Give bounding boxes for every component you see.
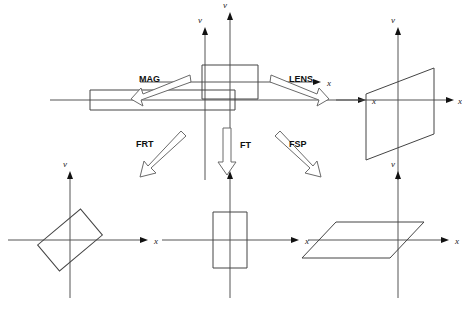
panel-fsp: v x xyxy=(302,159,459,298)
frt-arrow-icon[interactable] xyxy=(140,131,186,177)
panel-ft: v x xyxy=(162,159,309,298)
x-axis-label: x xyxy=(304,236,309,246)
x-axis-label: x xyxy=(326,78,331,88)
x-axis-arrowhead xyxy=(140,237,148,243)
x-axis-arrowhead xyxy=(446,97,454,103)
panel-lens: v x xyxy=(336,15,462,180)
operation-frt[interactable]: FRT xyxy=(136,131,186,177)
v-axis-label: v xyxy=(198,15,202,25)
ft-arrow-icon[interactable] xyxy=(218,128,236,175)
x-axis-label: x xyxy=(371,96,376,106)
operation-ft[interactable]: FT xyxy=(218,128,251,175)
v-axis-arrowhead xyxy=(395,171,401,179)
wigner-support-shape xyxy=(366,68,434,160)
fsp-arrow-icon[interactable] xyxy=(275,131,321,177)
x-axis-label: x xyxy=(457,96,462,106)
v-axis-arrowhead xyxy=(202,27,208,35)
x-axis-arrowhead xyxy=(291,237,299,243)
v-axis-label: v xyxy=(223,0,227,10)
phase-space-transform-diagram: v x v x v xyxy=(0,0,462,309)
v-axis-label: v xyxy=(391,159,395,169)
mag-label: MAG xyxy=(139,74,160,84)
panel-frt: v x xyxy=(8,159,158,298)
v-axis-label: v xyxy=(63,159,67,169)
lens-label: LENS xyxy=(289,74,313,84)
operation-lens[interactable]: LENS xyxy=(270,74,329,106)
frt-label: FRT xyxy=(136,139,154,149)
v-axis-arrowhead xyxy=(227,12,233,20)
operation-fsp[interactable]: FSP xyxy=(275,131,321,177)
ft-label: FT xyxy=(240,140,251,150)
v-axis-arrowhead xyxy=(395,27,401,35)
v-axis-arrowhead xyxy=(67,171,73,179)
diagram-canvas: v x v x v xyxy=(0,0,462,309)
x-axis-label: x xyxy=(153,236,158,246)
x-axis-arrowhead xyxy=(441,237,449,243)
fsp-label: FSP xyxy=(289,139,307,149)
v-axis-label: v xyxy=(391,15,395,25)
x-axis-label: x xyxy=(454,236,459,246)
x-axis-arrowhead xyxy=(313,79,321,85)
